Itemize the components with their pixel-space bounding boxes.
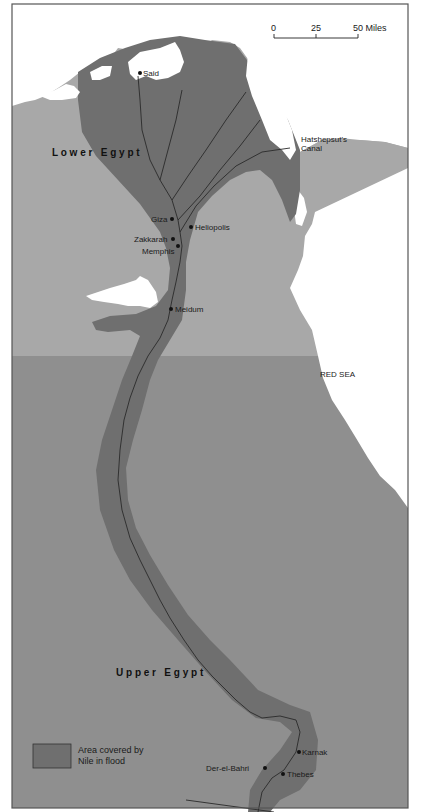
svg-text:Der-el-Bahri: Der-el-Bahri bbox=[206, 764, 249, 773]
svg-text:Said: Said bbox=[143, 69, 159, 78]
svg-text:Zakkarah: Zakkarah bbox=[134, 235, 167, 244]
legend-swatch-flood bbox=[33, 744, 71, 768]
svg-text:Thebes: Thebes bbox=[287, 770, 314, 779]
legend-text-line1: Area covered by bbox=[78, 745, 144, 755]
scale-tick-25: 25 bbox=[311, 23, 321, 33]
city-dot-icon bbox=[189, 225, 193, 229]
svg-text:Meidum: Meidum bbox=[175, 305, 204, 314]
red-sea-label: RED SEA bbox=[320, 370, 356, 379]
city-dot-icon bbox=[170, 217, 174, 221]
city-dot-icon bbox=[171, 237, 175, 241]
canal-label-line1: Hatshepsut's bbox=[301, 135, 347, 144]
city-dot-icon bbox=[169, 307, 173, 311]
svg-text:Karnak: Karnak bbox=[302, 748, 328, 757]
legend-text-line2: Nile in flood bbox=[78, 756, 125, 766]
egypt-nile-flood-map: 0 25 50 Miles L o w e r E g y p t U p p … bbox=[0, 0, 423, 812]
city-dot-icon bbox=[297, 750, 301, 754]
region-label-lower-egypt: L o w e r E g y p t bbox=[52, 147, 140, 158]
place-karnak: Karnak bbox=[297, 748, 328, 757]
city-dot-icon bbox=[281, 772, 285, 776]
city-dot-icon bbox=[263, 766, 267, 770]
svg-text:Heliopolis: Heliopolis bbox=[195, 223, 230, 232]
place-meidum: Meidum bbox=[169, 305, 204, 314]
place-heliopolis: Heliopolis bbox=[189, 223, 230, 232]
city-dot-icon bbox=[176, 244, 180, 248]
svg-text:Giza: Giza bbox=[151, 215, 168, 224]
region-label-upper-egypt: U p p e r E g y p t bbox=[116, 667, 204, 678]
scale-tick-0: 0 bbox=[271, 23, 276, 33]
svg-text:Memphis: Memphis bbox=[142, 247, 174, 256]
canal-label-line2: Canal bbox=[301, 144, 322, 153]
scale-tick-50: 50 Miles bbox=[353, 23, 387, 33]
city-dot-icon bbox=[138, 71, 142, 75]
